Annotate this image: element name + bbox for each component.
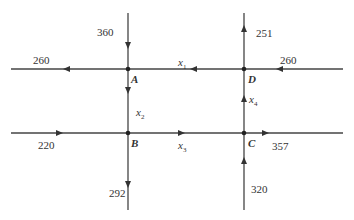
flow-label-b-in-left: 220 — [38, 140, 55, 151]
arrow-up-icon — [241, 25, 247, 32]
arrow-down-icon — [125, 181, 131, 188]
node-label-b: B — [131, 138, 138, 149]
node-b-dot — [126, 131, 131, 136]
edge-label-x4: x4 — [249, 94, 257, 108]
node-label-c: C — [248, 138, 255, 149]
flow-label-d-out-top: 251 — [256, 28, 273, 39]
node-c-dot — [242, 131, 247, 136]
arrow-down-icon — [125, 42, 131, 49]
flow-label-a-out-left: 260 — [33, 55, 50, 66]
node-a-dot — [126, 67, 131, 72]
arrow-left-icon — [276, 66, 283, 72]
flow-label-b-out-bottom: 292 — [109, 188, 126, 199]
flow-label-a-in-top: 360 — [97, 27, 114, 38]
edge-label-x2: x2 — [136, 107, 144, 121]
arrow-down-icon — [125, 87, 131, 94]
node-label-d: D — [248, 74, 256, 85]
flow-label-d-in-right: 260 — [280, 55, 297, 66]
arrow-right-icon — [178, 130, 185, 136]
flow-label-c-out-right: 357 — [272, 141, 289, 152]
node-label-a: A — [131, 74, 138, 85]
edge-label-x1: x1 — [178, 57, 186, 71]
arrow-up-icon — [241, 157, 247, 164]
arrow-right-icon — [262, 130, 269, 136]
traffic-network-diagram: A D B C x1 x2 x3 x4 360 260 251 260 220 … — [0, 0, 354, 220]
flow-label-c-in-bottom: 320 — [251, 184, 268, 195]
arrow-left-icon — [63, 66, 70, 72]
arrow-left-icon — [190, 66, 197, 72]
arrow-right-icon — [56, 130, 63, 136]
network-lines — [0, 0, 354, 220]
edge-label-x3: x3 — [178, 140, 186, 154]
node-d-dot — [242, 67, 247, 72]
arrow-up-icon — [241, 95, 247, 102]
